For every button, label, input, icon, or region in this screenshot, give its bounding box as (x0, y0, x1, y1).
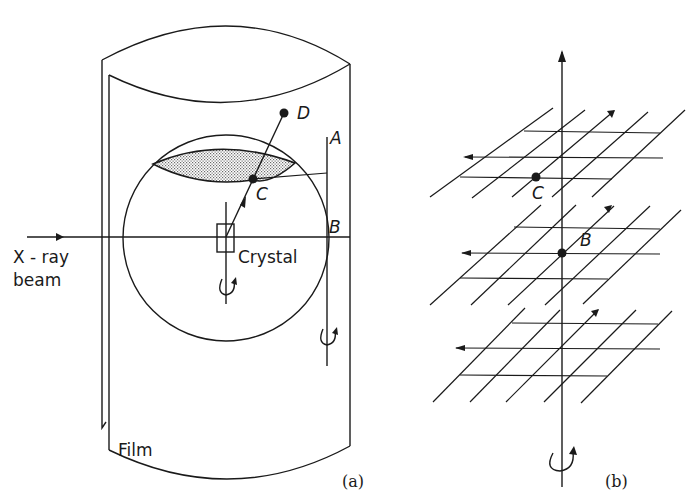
middle-arrow-left-icon (461, 250, 471, 256)
lattice-layer-bottom (433, 308, 672, 403)
label-beam: beam (13, 270, 61, 290)
diffraction-diagram: D A C B Crystal X - ray beam Film (a) (0, 0, 697, 501)
panel-a: D A C B Crystal X - ray beam Film (a) (13, 26, 364, 491)
film-left-outer-edge (102, 60, 106, 428)
lattice-rotation-icon (321, 329, 336, 345)
lattice-rotation-arrowhead-icon (332, 327, 338, 335)
label-c: C (532, 183, 544, 203)
beam-arrow-icon (56, 233, 64, 241)
top-arrow-left-icon (463, 154, 473, 160)
point-c-dot (532, 173, 541, 182)
caption-a: (a) (342, 472, 364, 491)
point-d-dot (280, 109, 289, 118)
lattice-layer-middle (430, 205, 681, 305)
film-top-inner-edge (109, 64, 350, 102)
crystal-rotation-arrowhead-icon (231, 277, 237, 285)
point-b-dot (558, 249, 567, 258)
top-arrow-diag-icon (607, 110, 615, 118)
label-xray: X - ray (13, 247, 69, 267)
panel-b: C B (b) (430, 50, 685, 491)
rotation-arrowhead-icon (569, 446, 577, 455)
label-d: D (297, 103, 310, 123)
point-c-dot (249, 175, 258, 184)
film-top-outer-edge (102, 26, 350, 64)
label-b: B (580, 230, 592, 250)
caption-b: (b) (605, 472, 628, 491)
axis-arrow-icon (558, 50, 566, 62)
label-c: C (256, 184, 268, 204)
label-a: A (329, 128, 342, 148)
label-crystal: Crystal (238, 247, 298, 267)
label-film: Film (118, 440, 153, 460)
label-b: B (329, 217, 341, 237)
lattice-layer-top (430, 108, 685, 198)
crystal-rotation-icon (220, 279, 235, 295)
bottom-arrow-left-icon (455, 345, 465, 351)
